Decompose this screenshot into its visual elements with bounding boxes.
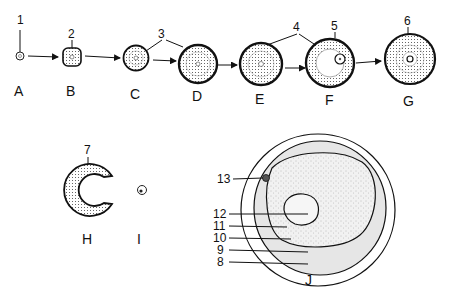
layer-12-nucleus <box>284 194 319 225</box>
callout-8: 8 <box>217 255 224 269</box>
cell-b-nucleus <box>70 55 74 59</box>
stage-label-d: D <box>192 88 202 104</box>
cell-e-nucleus <box>259 62 264 67</box>
stage-label-a: A <box>14 83 24 99</box>
arrow-a-b <box>28 56 58 57</box>
cell-f-nucleolus <box>339 58 341 60</box>
stage-label-g: G <box>403 93 414 109</box>
arrow-f-g <box>356 61 381 63</box>
layer-10-11 <box>267 153 376 247</box>
cell-i-nucleus <box>139 189 142 192</box>
cell-h <box>64 164 112 216</box>
stage-label-b: B <box>66 83 75 99</box>
stage-label-i: I <box>137 231 141 247</box>
callout-line-3-d <box>166 40 183 47</box>
callout-1: 1 <box>17 13 24 27</box>
callout-2: 2 <box>68 27 75 41</box>
stage-b: 2 B <box>63 27 81 99</box>
arrow-c-d <box>153 60 176 61</box>
stage-i: I <box>137 186 147 248</box>
callout-13: 13 <box>217 172 231 186</box>
stage-g: 6 G <box>385 14 435 109</box>
stage-label-h: H <box>82 231 92 247</box>
arrow-b-c <box>85 56 120 58</box>
stage-e: E <box>240 43 282 107</box>
stage-label-f: F <box>325 92 334 108</box>
callout-3: 3 <box>158 27 165 41</box>
stage-j: 13 12 11 10 9 8 J <box>213 134 395 288</box>
callout-7: 7 <box>84 143 91 157</box>
callout-4: 4 <box>293 20 300 34</box>
stage-f: 5 F <box>306 19 354 108</box>
stage-label-j: J <box>305 272 312 288</box>
callout-5: 5 <box>331 19 338 33</box>
stage-a: 1 A <box>14 13 24 99</box>
stage-label-e: E <box>255 91 264 107</box>
stage-d: D <box>179 45 217 104</box>
cell-a <box>16 52 24 60</box>
diagram-canvas: 1 A 2 B 3 C D 4 E <box>0 0 450 297</box>
cell-d-nucleus <box>196 62 200 66</box>
stage-h: 7 H <box>64 143 112 247</box>
stage-label-c: C <box>130 86 140 102</box>
cell-c-nucleus <box>134 56 138 60</box>
callout-6: 6 <box>404 14 411 28</box>
cell-g-nucleus <box>407 56 413 62</box>
structure-13 <box>263 175 270 182</box>
stage-c: C <box>124 46 149 103</box>
